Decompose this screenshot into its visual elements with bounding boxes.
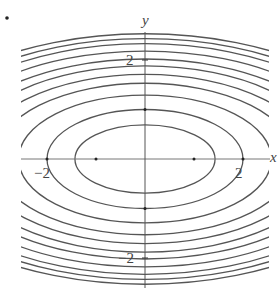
point-marker	[193, 158, 196, 161]
y-tick-neg2: −2	[118, 251, 134, 266]
y-tick-2: 2	[126, 53, 134, 68]
point-marker	[46, 158, 49, 161]
point-marker	[242, 158, 245, 161]
point-marker	[144, 207, 147, 210]
bullet-marker	[5, 16, 9, 20]
y-axis-label: y	[142, 13, 149, 28]
point-marker	[144, 108, 147, 111]
point-marker	[95, 158, 98, 161]
contour-plot	[0, 0, 278, 294]
x-tick-2: 2	[235, 166, 243, 181]
x-axis-label: x	[270, 150, 277, 165]
x-tick-neg2: −2	[34, 166, 50, 181]
